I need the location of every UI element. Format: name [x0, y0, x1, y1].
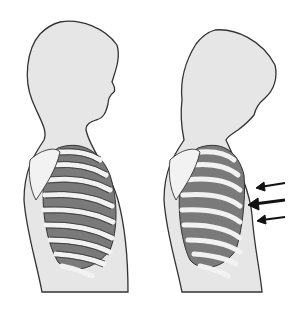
figure-normal [24, 21, 128, 292]
arrow-icon [248, 198, 285, 210]
retraction-arrows [248, 182, 285, 224]
illustration-canvas [0, 0, 303, 309]
arrow-icon [256, 182, 285, 191]
arrow-icon [257, 215, 285, 224]
figure-retracted [164, 30, 285, 292]
rib-retraction-illustration [0, 0, 303, 309]
